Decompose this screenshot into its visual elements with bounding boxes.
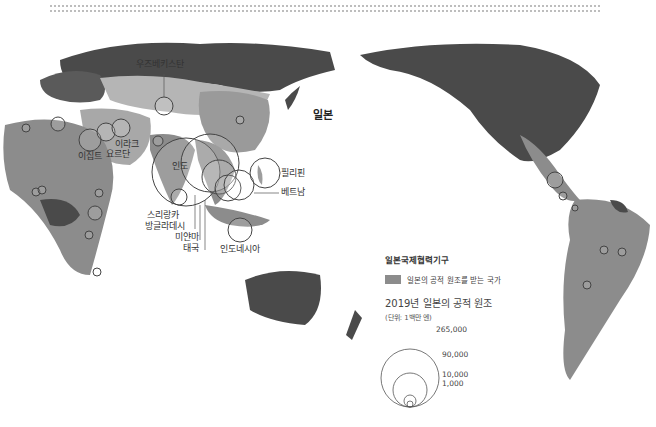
circle-uzbekistan	[155, 97, 173, 115]
label-iraq: 이라크	[115, 140, 139, 149]
australia-landmass	[245, 271, 321, 325]
new-zealand	[346, 310, 362, 340]
japan-islands	[285, 86, 300, 110]
circle-philippines	[250, 158, 280, 188]
label-srilanka: 스리랑카	[147, 211, 179, 220]
circle-pakistan	[153, 136, 163, 146]
legend-size-title: 2019년 일본의 공적 원조	[385, 295, 501, 310]
circle-srilanka	[171, 189, 187, 205]
south-america-landmass	[563, 199, 650, 380]
legend-value-90000: 90,000	[442, 350, 468, 359]
label-indonesia: 인도네시아	[220, 245, 260, 254]
legend-value-265000: 265,000	[436, 325, 467, 334]
legend-value-10000: 10,000	[442, 370, 468, 379]
circle-vietnam	[224, 170, 254, 200]
north-america-landmass	[360, 44, 600, 162]
europe-landmass	[40, 71, 105, 103]
label-egypt: 이집트	[78, 152, 102, 161]
label-bangladesh: 방글라데시	[145, 222, 185, 231]
legend-swatch-label: 일본의 공적 원조를 받는 국가	[407, 274, 501, 285]
label-india: 인도	[172, 162, 188, 171]
label-uzbekistan: 우즈베키스탄	[136, 60, 184, 69]
legend-size-unit: (단위: 1백만 엔)	[385, 312, 501, 322]
label-japan: 일본	[313, 110, 333, 121]
legend: 일본국제협력기구 일본의 공적 원조를 받는 국가 2019년 일본의 공적 원…	[385, 253, 501, 322]
label-jordan: 요르단	[106, 150, 130, 159]
label-myanmar: 미얀마	[175, 233, 199, 242]
world-map	[0, 0, 656, 427]
legend-value-1000: 1,000	[442, 379, 463, 388]
circle-indonesia	[228, 218, 252, 242]
circle-iraq	[112, 119, 130, 137]
legend-swatch	[385, 275, 401, 284]
label-philippines: 필리핀	[281, 169, 305, 178]
label-thailand: 태국	[183, 244, 199, 253]
label-vietnam: 베트남	[281, 188, 305, 197]
legend-title: 일본국제협력기구	[385, 253, 501, 265]
legend-swatch-row: 일본의 공적 원조를 받는 국가	[385, 274, 501, 285]
